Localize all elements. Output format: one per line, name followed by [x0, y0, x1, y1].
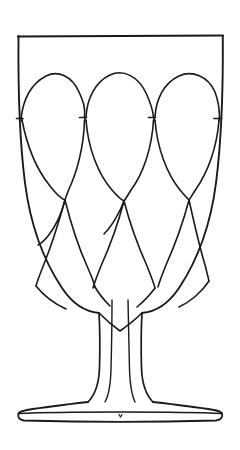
goblet-drawing [0, 0, 240, 450]
rim-line [18, 36, 223, 37]
paper-background [0, 0, 240, 450]
goblet-figure [0, 0, 240, 450]
